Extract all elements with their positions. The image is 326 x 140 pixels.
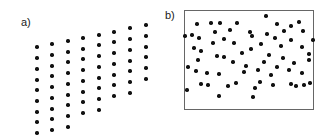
data-point [226,84,229,87]
data-point [128,26,131,29]
data-point [35,56,38,59]
data-point [190,33,193,36]
data-point [144,77,147,80]
data-point [211,41,214,44]
data-point [232,41,235,44]
data-point [66,103,69,106]
data-point [199,49,202,52]
data-point [35,45,38,48]
data-point [300,71,303,74]
data-point [275,22,278,25]
data-point [50,85,53,88]
data-point [66,50,69,53]
data-point [262,60,265,63]
data-point [81,111,84,114]
data-point [197,36,200,39]
data-point [144,34,147,37]
data-point [300,45,303,48]
data-point [81,100,84,103]
data-point [199,82,202,85]
data-point [186,65,189,68]
data-point [66,114,69,117]
data-point [50,96,53,99]
data-point [81,90,84,93]
data-point [307,58,310,61]
data-point [128,80,131,83]
panel-b: b) [163,0,326,140]
data-point [144,45,147,48]
data-point [213,30,216,33]
data-point [183,34,186,37]
data-point [35,78,38,81]
data-point [50,117,53,120]
data-point [271,83,274,86]
data-point [66,125,69,128]
data-point [112,94,115,97]
data-point [258,80,261,83]
data-point [217,94,220,97]
data-point [282,29,285,32]
data-point [275,65,278,68]
data-point [66,60,69,63]
data-point [112,40,115,43]
data-point [289,82,292,85]
data-point [81,47,84,50]
data-point [144,23,147,26]
data-point [50,128,53,131]
data-point [267,53,270,56]
data-point [244,64,247,67]
data-point [248,30,251,33]
data-point [292,61,295,64]
data-point [128,69,131,72]
data-point [97,43,100,46]
data-point [35,88,38,91]
data-point [279,44,282,47]
data-point [35,99,38,102]
data-point [294,84,297,87]
data-point [97,65,100,68]
data-point [281,56,284,59]
data-point [215,54,218,57]
data-point [289,38,292,41]
data-point [206,83,209,86]
data-point [112,62,115,65]
data-point [259,42,262,45]
data-point [185,88,188,91]
data-point [240,51,243,54]
data-point [192,46,195,49]
data-point [231,60,234,63]
data-point [242,70,245,73]
data-point [66,71,69,74]
data-point [251,95,254,98]
data-point [253,86,256,89]
data-point [249,47,252,50]
data-point [217,72,220,75]
data-point [35,110,38,113]
figure-container: a) b) [0,0,326,140]
data-point [128,37,131,40]
panel-a: a) [0,0,163,140]
data-point [234,81,237,84]
data-point [50,74,53,77]
data-point [228,28,231,31]
data-point [128,48,131,51]
data-point [50,107,53,110]
data-point [112,30,115,33]
data-point [97,108,100,111]
data-point [222,37,225,40]
data-point [35,131,38,134]
data-point [209,21,212,24]
data-point [144,55,147,58]
data-point [301,29,304,32]
data-point [256,68,259,71]
data-point [297,20,300,23]
data-point [265,32,268,35]
data-point [194,69,197,72]
data-point [97,54,100,57]
data-point [195,22,198,25]
panel-a-dot-layer [0,0,163,140]
data-point [307,52,310,55]
data-point [81,36,84,39]
data-point [97,86,100,89]
data-point [50,53,53,56]
